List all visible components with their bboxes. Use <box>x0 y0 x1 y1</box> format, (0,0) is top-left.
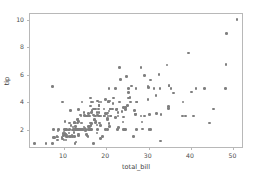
scatter-point <box>224 87 227 90</box>
scatter-points-layer <box>30 14 242 147</box>
scatter-point <box>63 128 66 131</box>
scatter-point <box>100 101 103 104</box>
scatter-point <box>33 142 36 145</box>
scatter-point <box>129 101 132 104</box>
scatter-point <box>90 101 93 104</box>
scatter-point <box>143 74 146 77</box>
scatter-point <box>97 108 100 111</box>
scatter-point <box>73 135 76 138</box>
scatter-point <box>61 101 64 104</box>
x-tick-label: 40 <box>186 152 194 159</box>
scatter-point <box>45 142 48 145</box>
scatter-point <box>141 121 144 124</box>
scatter-point <box>108 125 111 128</box>
scatter-point <box>89 122 92 125</box>
scatter-point <box>167 105 170 108</box>
scatter-point <box>159 87 162 90</box>
scatter-point <box>190 91 193 94</box>
scatter-point <box>212 108 215 111</box>
scatter-point <box>187 52 190 55</box>
scatter-point <box>127 97 130 100</box>
x-tick-mark <box>149 147 150 150</box>
scatter-point <box>56 135 59 138</box>
x-axis-label: total_bill <box>29 163 243 171</box>
scatter-point <box>69 109 72 112</box>
y-axis-label-text: tip <box>3 76 11 85</box>
scatter-point <box>89 105 92 108</box>
y-tick-mark <box>27 102 30 103</box>
scatter-point <box>140 66 143 69</box>
scatter-point <box>155 112 158 115</box>
scatter-point <box>155 94 158 97</box>
scatter-point <box>98 104 101 107</box>
x-tick-mark <box>233 147 234 150</box>
scatter-point <box>122 121 125 124</box>
scatter-point <box>80 115 83 118</box>
scatter-point <box>74 142 77 145</box>
scatter-point <box>89 97 92 100</box>
scatter-point <box>86 115 89 118</box>
scatter-point <box>112 102 115 105</box>
scatter-point <box>75 128 78 131</box>
scatter-point <box>118 66 121 69</box>
scatter-point <box>236 18 239 21</box>
plot-axes <box>29 13 243 148</box>
scatter-point <box>225 32 228 35</box>
scatter-point <box>140 115 143 118</box>
scatter-point <box>225 63 228 66</box>
scatter-point <box>208 122 211 125</box>
scatter-point <box>134 113 137 116</box>
scatter-point <box>203 87 206 90</box>
x-tick-label: 50 <box>228 152 236 159</box>
scatter-point <box>136 101 139 104</box>
scatter-point <box>57 130 60 133</box>
scatter-point <box>51 142 54 145</box>
scatter-point <box>62 132 65 135</box>
scatter-point <box>92 142 95 145</box>
scatter-point <box>65 139 68 142</box>
scatter-point <box>51 85 54 88</box>
scatter-point <box>184 115 187 118</box>
scatter-point <box>53 136 56 139</box>
scatter-point <box>143 115 146 118</box>
scatter-point <box>112 97 115 100</box>
scatter-point <box>52 128 55 131</box>
scatter-point <box>114 87 117 90</box>
scatter-point <box>135 87 138 90</box>
y-tick-mark <box>27 130 30 131</box>
scatter-point <box>89 128 92 131</box>
scatter-point <box>127 91 130 94</box>
scatter-point <box>103 108 106 111</box>
scatter-point <box>118 101 121 104</box>
scatter-point <box>117 115 120 118</box>
scatter-point <box>166 64 169 67</box>
scatter-point <box>148 113 151 116</box>
scatter-point <box>119 78 122 81</box>
x-tick-label: 20 <box>101 152 109 159</box>
scatter-point <box>76 122 79 125</box>
scatter-point <box>90 111 93 114</box>
scatter-point <box>99 124 102 127</box>
scatter-point <box>69 135 72 138</box>
y-tick-mark <box>27 75 30 76</box>
scatter-point <box>90 124 93 127</box>
scatter-point <box>141 128 144 131</box>
x-tick-mark <box>64 147 65 150</box>
scatter-point <box>74 125 77 128</box>
scatter-point <box>133 109 136 112</box>
y-tick-mark <box>27 47 30 48</box>
scatter-point <box>77 118 80 121</box>
scatter-point <box>77 134 80 137</box>
scatter-point <box>195 87 198 90</box>
x-tick-label: 10 <box>59 152 67 159</box>
scatter-point <box>82 128 85 131</box>
scatter-point <box>153 87 156 90</box>
scatter-point <box>96 128 99 131</box>
scatter-point <box>100 115 103 118</box>
scatter-point <box>170 87 173 90</box>
scatter-point <box>126 104 129 107</box>
scatter-point <box>81 101 84 104</box>
scatter-point <box>132 135 135 138</box>
scatter-point <box>160 113 163 116</box>
scatter-point <box>182 101 185 104</box>
